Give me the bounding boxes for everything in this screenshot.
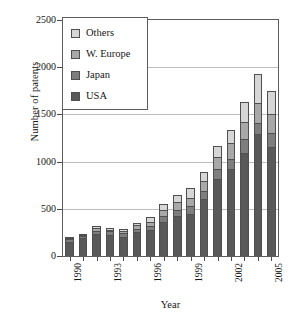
- stacked-bar[interactable]: [213, 146, 222, 256]
- patents-stacked-bar-chart: Number of patents 05001000150020002500 1…: [0, 0, 292, 318]
- bar-segment-usa: [267, 147, 276, 256]
- bar-segment-weuro: [173, 202, 182, 210]
- stacked-bar[interactable]: [254, 74, 263, 256]
- stacked-bar[interactable]: [267, 91, 276, 256]
- x-tick-label: 1999: [195, 263, 205, 282]
- legend-label: W. Europe: [86, 49, 131, 60]
- stacked-bar[interactable]: [92, 226, 101, 256]
- x-tick-mark: [83, 257, 84, 261]
- stacked-bar[interactable]: [227, 130, 236, 256]
- y-tick-label: 0: [16, 251, 56, 261]
- x-tick-mark: [97, 257, 98, 261]
- stacked-bar[interactable]: [240, 102, 249, 256]
- legend-swatch-others-icon: [71, 29, 80, 38]
- legend-item-weuro[interactable]: W. Europe: [71, 44, 147, 65]
- legend-item-usa[interactable]: USA: [71, 86, 147, 107]
- bar-segment-weuro: [227, 143, 236, 159]
- y-tick-label: 1500: [16, 109, 56, 119]
- bar-segment-others: [159, 204, 168, 211]
- x-tick-label: 1993: [114, 263, 124, 282]
- bar-segment-weuro: [267, 114, 276, 133]
- y-tick-label: 2500: [16, 15, 56, 25]
- bar-segment-japan: [267, 133, 276, 147]
- legend-swatch-usa-icon: [71, 92, 80, 101]
- legend-label: USA: [86, 91, 107, 102]
- bar-segment-weuro: [240, 122, 249, 139]
- bar-segment-weuro: [200, 181, 209, 191]
- x-tick-label: 2005: [275, 263, 285, 282]
- legend-label: Japan: [86, 70, 110, 81]
- bar-segment-japan: [186, 206, 195, 214]
- chart-legend: OthersW. EuropeJapanUSA: [62, 17, 148, 110]
- bar-segment-weuro: [213, 157, 222, 168]
- stacked-bar[interactable]: [159, 204, 168, 256]
- bar-segment-usa: [213, 179, 222, 256]
- stacked-bar[interactable]: [79, 234, 88, 256]
- x-tick-mark: [123, 257, 124, 261]
- bar-slot: [238, 20, 251, 256]
- bar-segment-japan: [200, 191, 209, 199]
- bar-segment-others: [186, 188, 195, 197]
- bar-segment-usa: [240, 153, 249, 256]
- bar-segment-usa: [92, 234, 101, 256]
- bar-segment-japan: [254, 123, 263, 134]
- bar-segment-usa: [106, 235, 115, 256]
- bar-slot: [251, 20, 264, 256]
- bar-segment-weuro: [186, 198, 195, 207]
- stacked-bar[interactable]: [173, 195, 182, 256]
- bar-segment-japan: [213, 169, 222, 179]
- bar-segment-others: [173, 195, 182, 202]
- legend-item-others[interactable]: Others: [71, 23, 147, 44]
- bar-segment-usa: [200, 199, 209, 256]
- bar-segment-usa: [146, 230, 155, 256]
- bar-slot: [265, 20, 278, 256]
- bar-segment-others: [227, 130, 236, 144]
- legend-label: Others: [86, 28, 114, 39]
- x-tick-label: 1990: [74, 263, 84, 282]
- stacked-bar[interactable]: [200, 172, 209, 256]
- x-tick-mark: [191, 257, 192, 261]
- bar-slot: [171, 20, 184, 256]
- bar-segment-usa: [173, 216, 182, 256]
- bar-segment-others: [213, 146, 222, 157]
- x-tick-mark: [110, 257, 111, 261]
- bar-segment-usa: [159, 222, 168, 256]
- x-tick-mark: [177, 257, 178, 261]
- x-tick-mark: [150, 257, 151, 261]
- y-axis-title: Number of patents: [29, 7, 40, 197]
- y-tick-label: 1000: [16, 157, 56, 167]
- stacked-bar[interactable]: [146, 217, 155, 256]
- bar-segment-usa: [254, 134, 263, 256]
- bar-segment-others: [200, 172, 209, 180]
- x-tick-mark: [271, 257, 272, 261]
- x-tick-mark: [204, 257, 205, 261]
- x-tick-mark: [164, 257, 165, 261]
- x-tick-mark: [137, 257, 138, 261]
- stacked-bar[interactable]: [186, 188, 195, 256]
- bar-segment-japan: [227, 159, 236, 169]
- stacked-bar[interactable]: [65, 237, 74, 256]
- stacked-bar[interactable]: [119, 229, 128, 256]
- y-tick-label: 2000: [16, 62, 56, 72]
- bar-slot: [224, 20, 237, 256]
- bar-segment-usa: [227, 169, 236, 256]
- bar-segment-weuro: [254, 103, 263, 123]
- bar-segment-others: [254, 74, 263, 103]
- bar-segment-japan: [240, 139, 249, 153]
- bar-slot: [184, 20, 197, 256]
- stacked-bar[interactable]: [133, 223, 142, 256]
- bar-segment-usa: [186, 214, 195, 256]
- bar-segment-usa: [119, 237, 128, 256]
- bar-segment-usa: [79, 238, 88, 256]
- x-axis-title: Year: [62, 299, 279, 310]
- bar-slot: [211, 20, 224, 256]
- bar-segment-others: [240, 102, 249, 121]
- x-tick-mark: [244, 257, 245, 261]
- legend-item-japan[interactable]: Japan: [71, 65, 147, 86]
- bar-segment-usa: [133, 232, 142, 256]
- stacked-bar[interactable]: [106, 228, 115, 256]
- legend-swatch-weuro-icon: [71, 50, 80, 59]
- bar-segment-usa: [65, 242, 74, 256]
- bar-segment-others: [267, 91, 276, 114]
- legend-swatch-japan-icon: [71, 71, 80, 80]
